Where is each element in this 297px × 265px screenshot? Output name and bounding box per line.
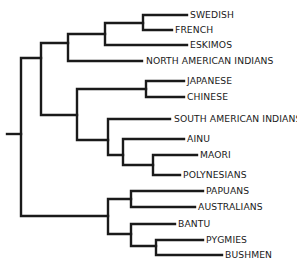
leaf-label-ainu: AINU (187, 134, 210, 144)
leaf-label-french: FRENCH (175, 25, 213, 35)
leaf-label-north-american-indians: NORTH AMERICAN INDIANS (146, 56, 273, 66)
leaf-label-chinese: CHINESE (187, 92, 228, 102)
african-node (131, 224, 175, 246)
tree-branches (0, 0, 297, 265)
japanese-chinese-node (146, 81, 184, 97)
leaf-label-polynesians: POLYNESIANS (183, 170, 247, 180)
leaf-label-papuans: PAPUANS (206, 186, 249, 196)
leaf-label-swedish: SWEDISH (190, 10, 234, 20)
leaf-label-maori: MAORI (200, 150, 231, 160)
leaf-label-australians: AUSTRALIANS (198, 202, 263, 212)
phylogenetic-tree: SWEDISH FRENCH ESKIMOS NORTH AMERICAN IN… (0, 0, 297, 265)
upper-clade-node (41, 43, 77, 115)
south-american-node (108, 119, 170, 155)
leaf-label-eskimos: ESKIMOS (190, 40, 232, 50)
leaf-label-bushmen: BUSHMEN (225, 250, 272, 260)
leaf-label-south-american-indians: SOUTH AMERICAN INDIANS (174, 114, 297, 124)
leaf-label-japanese: JAPANESE (187, 76, 232, 86)
leaf-label-bantu: BANTU (178, 219, 210, 229)
root-node (21, 58, 108, 216)
asian-pacific-node (77, 89, 146, 140)
papuan-australian-node (131, 191, 203, 207)
leaf-label-pygmies: PYGMIES (206, 235, 247, 245)
lower-clade-node (108, 199, 131, 234)
